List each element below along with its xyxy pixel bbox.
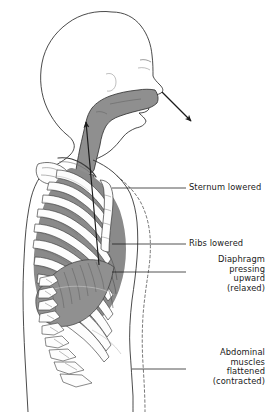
sternum-lowered-label: Sternum lowered (189, 183, 261, 193)
sternum-lowered-line-1: Sternum lowered (189, 183, 261, 193)
ribs-lowered-line-1: Ribs lowered (189, 239, 243, 249)
diaphragm-relaxed-label: Diaphragm pressing upward (relaxed) (218, 255, 265, 293)
ribs-lowered-label: Ribs lowered (189, 239, 243, 249)
diaphragm-line-4: (relaxed) (218, 284, 265, 294)
abdominal-line-4: (contracted) (213, 377, 265, 387)
abdominal-muscles-label: Abdominal muscles flattened (contracted) (213, 348, 265, 386)
